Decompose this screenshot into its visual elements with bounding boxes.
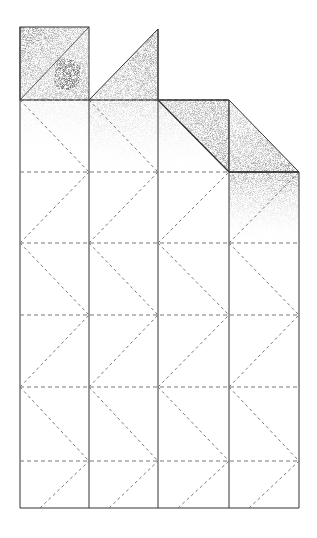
diagonal-fold-r1-c0 bbox=[20, 172, 89, 243]
diagonal-fold-r3-c2 bbox=[158, 315, 229, 387]
diagonal-fold-r3-c3 bbox=[229, 315, 299, 387]
diagonal-fold-r2-c1 bbox=[89, 243, 158, 315]
diagonal-fold-r1-c2 bbox=[158, 172, 229, 243]
diagonal-fold-r3-c0 bbox=[20, 315, 89, 387]
diagonal-fold-r5-c0 bbox=[40, 461, 89, 508]
diagonal-fold-r3-c1 bbox=[89, 315, 158, 387]
diagonal-fold-r4-c0 bbox=[20, 387, 89, 461]
diagonal-fold-r5-c2 bbox=[178, 461, 229, 508]
diagonal-fold-r5-c3 bbox=[249, 461, 299, 508]
diagonal-fold-r2-c3 bbox=[229, 243, 299, 315]
diagonal-fold-r1-c1 bbox=[89, 172, 158, 243]
shading-layer bbox=[20, 100, 299, 247]
diagonal-fold-r4-c1 bbox=[89, 387, 158, 461]
diagonal-fold-r4-c3 bbox=[229, 387, 299, 461]
diagonal-fold-r2-c2 bbox=[158, 243, 229, 315]
diagram-canvas bbox=[0, 0, 317, 538]
diagonal-fold-r2-c0 bbox=[20, 243, 89, 315]
diagonal-fold-r4-c2 bbox=[158, 387, 229, 461]
origami-diagram bbox=[0, 0, 317, 538]
diagonal-fold-r5-c1 bbox=[109, 461, 158, 508]
shade-left-column bbox=[20, 100, 89, 160]
